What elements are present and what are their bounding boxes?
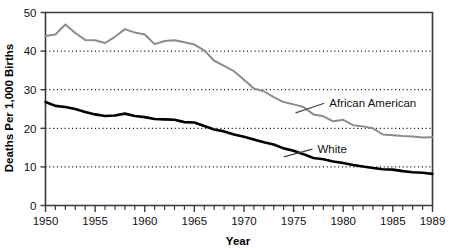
x-tick-label-1950: 1950 — [33, 215, 59, 227]
y-tick-label-30: 30 — [24, 84, 37, 96]
y-axis-title: Deaths Per 1,000 Births — [3, 44, 15, 172]
y-tick-label-10: 10 — [24, 161, 37, 173]
x-tick-label-1980: 1980 — [330, 215, 356, 227]
series-line-wh — [46, 102, 433, 174]
series-line-aa — [46, 24, 433, 137]
x-axis-title: Year — [226, 235, 251, 247]
x-tick-label-1960: 1960 — [132, 215, 158, 227]
chart-canvas: 195019551960196519701975198019851989 010… — [0, 0, 461, 249]
series-label-wh: White — [317, 143, 346, 155]
y-tick-label-20: 20 — [24, 123, 37, 135]
y-axis-tick-labels: 01020304050 — [24, 7, 37, 212]
series-label-aa: African American — [329, 97, 416, 109]
x-tick-label-1985: 1985 — [380, 215, 406, 227]
x-tick-label-1975: 1975 — [281, 215, 307, 227]
x-axis-tick-labels: 195019551960196519701975198019851989 — [33, 215, 446, 227]
y-tick-label-40: 40 — [24, 45, 37, 57]
x-tick-label-1970: 1970 — [231, 215, 257, 227]
mortality-line-chart: 195019551960196519701975198019851989 010… — [0, 0, 461, 249]
x-axis-ticks — [46, 206, 433, 213]
x-tick-label-1965: 1965 — [182, 215, 208, 227]
y-tick-label-0: 0 — [30, 200, 36, 212]
x-tick-label-1989: 1989 — [420, 215, 446, 227]
y-tick-label-50: 50 — [24, 7, 37, 19]
x-tick-label-1955: 1955 — [82, 215, 108, 227]
